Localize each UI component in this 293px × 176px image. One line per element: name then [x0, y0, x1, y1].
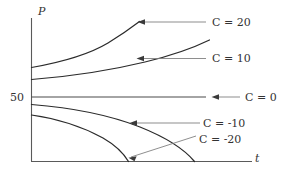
- curve-label-c10: C = 10: [212, 52, 251, 65]
- leader-cneg10: [130, 120, 201, 125]
- arrowhead-c10-icon: [137, 56, 145, 61]
- y-axis-label: P: [37, 5, 46, 18]
- curve-c20: [32, 22, 140, 68]
- curve-cneg10: [32, 105, 195, 162]
- curve-label-cneg20: C = -20: [199, 133, 241, 146]
- leader-c20: [138, 19, 207, 24]
- arrowhead-c0-icon: [212, 94, 220, 99]
- curve-cneg20: [32, 115, 129, 162]
- arrowhead-c20-icon: [138, 19, 146, 24]
- arrowhead-cneg20-icon: [129, 156, 137, 161]
- curve-label-c0: C = 0: [245, 91, 277, 104]
- y-tick-label-50: 50: [10, 91, 24, 104]
- phase-portrait-figure: P t 50 C = 20 C = 10 C = 0 C = -10 C = -…: [0, 0, 293, 176]
- x-axis-label: t: [255, 152, 260, 165]
- plot-svg: P t 50 C = 20 C = 10 C = 0 C = -10 C = -…: [0, 0, 293, 176]
- curve-label-cneg10: C = -10: [203, 117, 245, 130]
- leader-cneg20: [129, 136, 197, 161]
- leader-c0: [212, 94, 241, 99]
- curve-c10: [32, 40, 210, 80]
- leader-c10: [137, 56, 207, 61]
- curve-label-c20: C = 20: [212, 16, 251, 29]
